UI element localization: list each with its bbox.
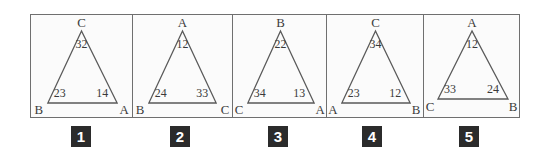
right-vertex-label: B xyxy=(509,99,518,114)
triangle-diagram-2: A 12 B 24 C 33 xyxy=(133,15,232,117)
right-angle-value: 24 xyxy=(487,82,499,96)
apex-vertex-label: A xyxy=(467,15,477,30)
triangle-panel-5: A 12 C 33 B 24 xyxy=(424,15,518,117)
panel-strip: C 32 B 23 A 14 A 12 B 24 C 33 xyxy=(30,14,520,118)
apex-angle-value: 12 xyxy=(466,37,478,51)
apex-vertex-label: C xyxy=(77,15,86,30)
apex-angle-value: 22 xyxy=(275,37,287,51)
apex-vertex-label: B xyxy=(276,15,285,30)
left-vertex-label: B xyxy=(136,102,145,117)
right-angle-value: 13 xyxy=(293,86,305,100)
right-vertex-label: B xyxy=(412,102,421,117)
right-angle-value: 33 xyxy=(196,86,208,100)
apex-vertex-label: A xyxy=(178,15,188,30)
left-vertex-label: C xyxy=(426,99,435,114)
badge-cell-2: 2 xyxy=(132,126,232,150)
left-vertex-label: B xyxy=(35,102,44,117)
panel-number-badge-2: 2 xyxy=(170,126,190,147)
left-angle-value: 34 xyxy=(254,86,266,100)
apex-angle-value: 32 xyxy=(76,37,88,51)
panel-number-badge-3: 3 xyxy=(268,126,288,147)
right-vertex-label: A xyxy=(315,102,325,117)
left-vertex-label: C xyxy=(235,102,244,117)
right-angle-value: 14 xyxy=(96,86,108,100)
triangle-panel-2: A 12 B 24 C 33 xyxy=(133,15,233,117)
panel-number-badge-5: 5 xyxy=(459,126,479,147)
triangle-panel-4: C 34 A 23 B 12 xyxy=(327,15,424,117)
triangle-diagram-4: C 34 A 23 B 12 xyxy=(327,15,423,117)
triangle-figure: C 32 B 23 A 14 A 12 B 24 C 33 xyxy=(0,0,553,162)
panel-number-badge-4: 4 xyxy=(362,126,382,147)
panel-number-badge-1: 1 xyxy=(71,126,91,147)
right-vertex-label: A xyxy=(119,102,129,117)
badge-cell-1: 1 xyxy=(30,126,132,150)
triangle-diagram-5: A 12 C 33 B 24 xyxy=(424,15,518,117)
right-angle-value: 12 xyxy=(389,86,401,100)
badge-cell-4: 4 xyxy=(326,126,423,150)
left-angle-value: 23 xyxy=(348,86,360,100)
panel-number-row: 1 2 3 4 5 xyxy=(30,126,520,150)
left-angle-value: 23 xyxy=(54,86,66,100)
left-angle-value: 33 xyxy=(444,82,456,96)
apex-angle-value: 12 xyxy=(177,37,189,51)
left-angle-value: 24 xyxy=(155,86,167,100)
badge-cell-3: 3 xyxy=(232,126,326,150)
triangle-diagram-1: C 32 B 23 A 14 xyxy=(31,15,132,117)
badge-cell-5: 5 xyxy=(423,126,517,150)
apex-angle-value: 34 xyxy=(370,37,382,51)
left-vertex-label: A xyxy=(328,102,338,117)
triangle-diagram-3: B 22 C 34 A 13 xyxy=(233,15,326,117)
triangle-panel-3: B 22 C 34 A 13 xyxy=(233,15,327,117)
triangle-panel-1: C 32 B 23 A 14 xyxy=(31,15,133,117)
apex-vertex-label: C xyxy=(371,15,380,30)
right-vertex-label: C xyxy=(221,102,230,117)
